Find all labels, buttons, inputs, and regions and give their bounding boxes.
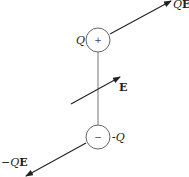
negative-charge: − [86, 125, 110, 149]
negative-charge-label: -Q [112, 131, 125, 144]
force-arrow-negative [26, 143, 86, 176]
plus-sign: + [94, 35, 102, 45]
field-label: E [119, 81, 127, 94]
positive-charge-label: Q [76, 34, 85, 47]
minus-sign: − [94, 132, 102, 142]
force-label-positive: QE [173, 0, 189, 11]
positive-charge: + [86, 28, 110, 52]
force-arrow-positive [110, 1, 171, 34]
force-label-negative: −QE [1, 156, 28, 169]
dipole-diagram: + Q − -Q QE E −QE [0, 0, 189, 177]
field-arrow [71, 77, 120, 104]
